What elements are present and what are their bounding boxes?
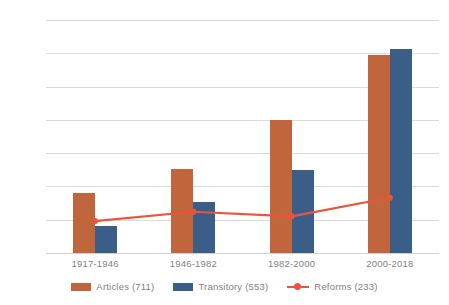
- legend-item[interactable]: Transitory (553): [173, 281, 268, 292]
- bar-line-combo-chart: 050100150200250300350 Reforms (233) 1917…: [0, 0, 449, 305]
- legend-swatch-icon: [71, 283, 91, 291]
- legend-item-label: Reforms (233): [314, 281, 377, 292]
- bar-transitory[interactable]: [95, 226, 117, 253]
- legend-item[interactable]: Articles (711): [71, 281, 154, 292]
- bar-group: [243, 20, 341, 253]
- gridline: [46, 253, 439, 254]
- bar-articles[interactable]: [270, 120, 292, 253]
- bar-group: [46, 20, 144, 253]
- bar-group: [144, 20, 242, 253]
- bar-transitory[interactable]: [193, 202, 215, 253]
- legend-line-marker-icon: [287, 282, 309, 291]
- chart-legend: Articles (711)Transitory (553)Reforms (2…: [0, 281, 449, 292]
- bar-articles[interactable]: [368, 55, 390, 253]
- plot-area: 050100150200250300350 Reforms (233) 1917…: [46, 20, 439, 253]
- legend-item[interactable]: Reforms (233): [287, 281, 377, 292]
- legend-item-label: Articles (711): [96, 281, 154, 292]
- bar-transitory[interactable]: [390, 49, 412, 253]
- bar-group: [341, 20, 439, 253]
- bar-transitory[interactable]: [292, 170, 314, 253]
- bar-articles[interactable]: [171, 169, 193, 253]
- x-tick-label: 2000-2018: [330, 258, 449, 269]
- legend-swatch-icon: [173, 283, 193, 291]
- bar-articles[interactable]: [73, 193, 95, 253]
- legend-item-label: Transitory (553): [198, 281, 268, 292]
